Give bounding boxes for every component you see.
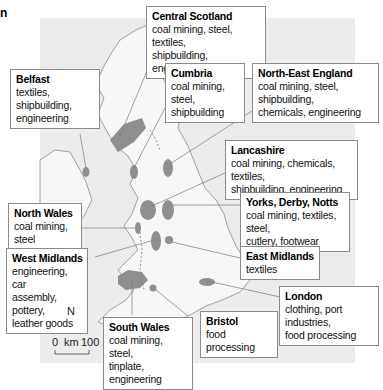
region-industries: coal mining, steel,: [109, 334, 188, 360]
scale-start-label: 0: [52, 336, 58, 348]
region-title: South Wales: [109, 321, 188, 334]
label-box-belfast: Belfast textiles, shipbuilding, engineer…: [10, 69, 100, 129]
region-industries: coal mining, chemicals, textiles,: [231, 157, 353, 183]
region-industries: textiles: [246, 263, 315, 276]
region-title: Central Scotland: [152, 10, 261, 23]
region-industries: textiles, shipbuilding,: [16, 86, 95, 112]
region-industries: engineering: [16, 112, 95, 125]
region-title: North-East England: [258, 67, 374, 80]
label-box-yorks-derby-notts: Yorks, Derby, Notts coal mining, textile…: [240, 192, 350, 252]
region-industries: chemicals, engineering: [258, 106, 374, 119]
region-industries: leather goods: [12, 317, 83, 330]
label-box-west-midlands: West Midlands engineering, car assembly,…: [6, 248, 88, 334]
label-box-north-wales: North Wales coal mining, steel: [8, 203, 82, 250]
region-title: Bristol: [206, 315, 273, 328]
area-bristol: [150, 285, 157, 292]
region-industries: coal mining, steel,: [171, 80, 240, 106]
region-title: East Midlands: [246, 250, 315, 263]
label-box-north-east-england: North-East England coal mining, steel, s…: [252, 63, 379, 123]
region-title: West Midlands: [12, 252, 83, 265]
region-industries: shipbuilding: [171, 106, 240, 119]
region-industries: coal mining, steel, textiles,: [152, 23, 261, 49]
area-belfast: [83, 167, 90, 177]
region-industries: engineering, car: [12, 265, 83, 291]
region-industries: coal mining, steel: [14, 220, 77, 246]
area-cumbria: [130, 165, 138, 179]
area-east-midlands: [165, 236, 173, 244]
scale-end-label: 100: [81, 336, 99, 348]
scale-unit-label: km: [64, 336, 79, 348]
label-box-london: London clothing, port industries, food p…: [279, 286, 379, 346]
region-title: London: [285, 290, 374, 303]
label-box-east-midlands: East Midlands textiles: [240, 246, 320, 280]
area-lancashire: [140, 200, 156, 220]
region-industries: clothing, port industries,: [285, 303, 374, 329]
region-industries: coal mining, steel, shipbuilding,: [258, 80, 374, 106]
region-industries: food processing: [206, 328, 273, 354]
label-box-south-wales: South Wales coal mining, steel, tinplate…: [103, 317, 193, 390]
area-west-midlands: [151, 231, 161, 251]
corner-label: n: [0, 6, 7, 20]
area-yorks: [162, 200, 174, 220]
label-box-cumbria: Cumbria coal mining, steel, shipbuilding: [165, 63, 245, 123]
north-label: N: [67, 305, 75, 317]
area-north-wales: [135, 222, 141, 234]
region-title: North Wales: [14, 207, 77, 220]
region-title: Cumbria: [171, 67, 240, 80]
label-box-lancashire: Lancashire coal mining, chemicals, texti…: [225, 140, 358, 200]
region-industries: coal mining, textiles, steel,: [246, 209, 345, 235]
area-north-east: [163, 159, 173, 177]
region-industries: food processing: [285, 329, 374, 342]
region-title: Belfast: [16, 73, 95, 86]
region-title: Lancashire: [231, 144, 353, 157]
label-box-bristol: Bristol food processing: [200, 311, 278, 358]
region-industries: tinplate, engineering: [109, 360, 188, 386]
region-title: Yorks, Derby, Notts: [246, 196, 345, 209]
